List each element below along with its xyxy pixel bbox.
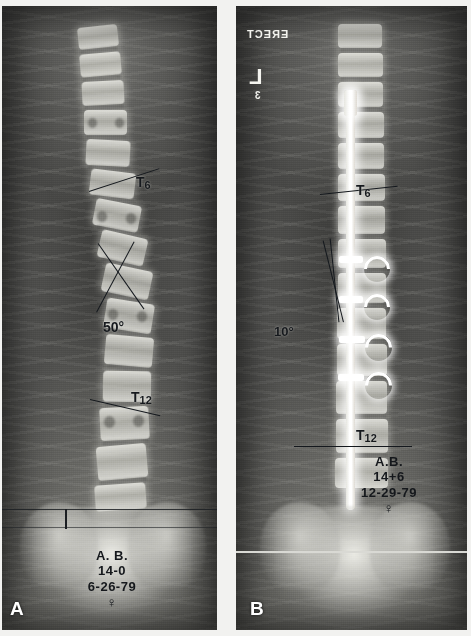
stamp-initials-a: A. B.	[64, 548, 160, 563]
cobb-angle-label-a: 50°	[103, 319, 124, 335]
stamp-age-b: 14+6	[334, 469, 444, 484]
stamp-date-b: 12-29-79	[334, 485, 444, 500]
panel-a: T6 50° T12 A. B. 14-0 6-26-79 ♀	[2, 6, 217, 630]
lead-marker-erect-b: ERECT	[246, 28, 288, 40]
panel-a-film: T6 50° T12 A. B. 14-0 6-26-79 ♀	[2, 6, 217, 630]
lead-marker-side-b: L	[248, 64, 262, 90]
label-t12-b: T12	[356, 427, 377, 444]
film-vignette-a	[2, 6, 217, 630]
label-t12-a: T12	[131, 389, 152, 406]
stamp-sex-symbol-b: ♀	[334, 500, 444, 517]
stamp-sex-symbol-a: ♀	[64, 594, 160, 611]
patient-stamp-b: A.B. 14+6 12-29-79 ♀	[334, 454, 444, 517]
film-vignette-b	[236, 6, 467, 630]
panel-b: ERECT L 3 T6 10° T12 A.B.	[236, 6, 467, 630]
pelvic-reference-tick-a	[65, 509, 67, 529]
patient-stamp-a: A. B. 14-0 6-26-79 ♀	[64, 548, 160, 611]
pelvic-reference-line-a	[2, 509, 217, 510]
panel-b-film: ERECT L 3 T6 10° T12 A.B.	[236, 6, 467, 630]
label-t6-b: T6	[356, 182, 371, 199]
radiograph-figure: T6 50° T12 A. B. 14-0 6-26-79 ♀	[0, 0, 471, 636]
stamp-date-a: 6-26-79	[64, 579, 160, 594]
panel-letter-b: B	[250, 598, 264, 620]
lead-marker-number-b: 3	[254, 90, 261, 101]
stamp-age-a: 14-0	[64, 563, 160, 578]
label-t6-a: T6	[136, 174, 151, 191]
pelvic-reference-line-a-2	[2, 527, 217, 528]
t12-endplate-line-b	[294, 446, 412, 447]
film-seam-b	[236, 551, 467, 553]
cobb-angle-label-b: 10°	[274, 324, 294, 339]
stamp-initials-b: A.B.	[334, 454, 444, 469]
panel-letter-a: A	[10, 598, 24, 620]
